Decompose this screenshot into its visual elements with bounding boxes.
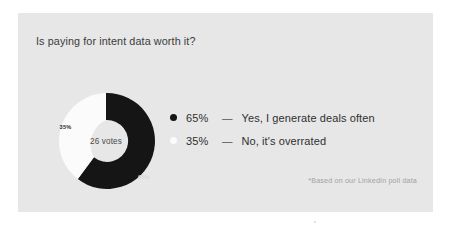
legend-percent: 35% (186, 135, 219, 147)
footnote-source: *Based on our LinkedIn poll data (308, 176, 417, 185)
legend-percent: 65% (186, 112, 219, 124)
page-title: Is paying for intent data worth it? (36, 34, 196, 48)
legend-item-no[interactable]: 35% — No, it's overrated (170, 129, 420, 152)
page-speck (314, 221, 316, 223)
legend-dash: — (222, 135, 233, 147)
page-root: Is paying for intent data worth it? 35% … (0, 0, 450, 230)
donut-slice-label-yes: 65% (138, 174, 150, 180)
donut-slice-label-no: 35% (60, 124, 72, 130)
legend: 65% — Yes, I generate deals often 35% — … (170, 106, 420, 152)
donut-chart: 35% 65% 26 votes (40, 80, 172, 202)
poll-result-card: Is paying for intent data worth it? 35% … (18, 13, 433, 212)
donut-center-label: 26 votes (90, 137, 122, 146)
legend-label: No, it's overrated (242, 135, 327, 147)
legend-bullet-light-icon (170, 137, 177, 144)
legend-label: Yes, I generate deals often (242, 112, 375, 124)
legend-item-yes[interactable]: 65% — Yes, I generate deals often (170, 106, 420, 129)
legend-dash: — (222, 112, 233, 124)
donut-chart-svg: 35% 65% 26 votes (40, 80, 172, 202)
legend-bullet-dark-icon (170, 114, 177, 121)
